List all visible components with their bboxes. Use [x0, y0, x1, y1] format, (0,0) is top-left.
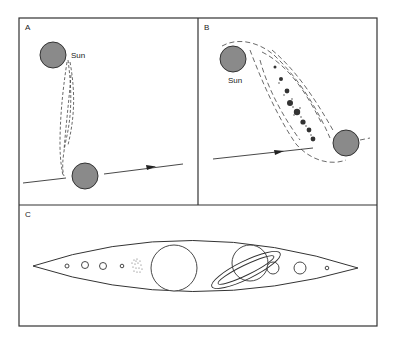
panel-a: A Sun [23, 23, 183, 189]
star-trajectory [23, 164, 183, 183]
sun-body [220, 46, 246, 72]
panel-c-label: C [25, 210, 31, 219]
panel-b: B Sun [204, 23, 370, 162]
cluster-speckle [278, 82, 312, 136]
panel-b-label: B [204, 23, 209, 32]
sun-label: Sun [228, 76, 242, 85]
tidal-stream [60, 60, 74, 176]
planet-neptune [294, 262, 306, 274]
planet-earth [100, 263, 107, 270]
planet-venus [82, 262, 89, 269]
planet-mercury [65, 264, 69, 268]
panel-a-label: A [25, 23, 31, 32]
sun-label: Sun [71, 51, 85, 60]
planet-mars [120, 264, 124, 268]
protoplanet-clusters [274, 66, 316, 142]
sun-body [40, 42, 66, 68]
passing-star [333, 130, 359, 156]
direction-arrow-icon [274, 150, 284, 155]
asteroid-belt [131, 258, 142, 272]
panel-c: C [25, 210, 358, 295]
passing-star [72, 163, 98, 189]
star-trajectory [213, 148, 313, 159]
planet-jupiter [151, 245, 197, 291]
solar-system-formation-figure: A Sun B Sun [0, 0, 393, 345]
planet-pluto [325, 266, 329, 270]
